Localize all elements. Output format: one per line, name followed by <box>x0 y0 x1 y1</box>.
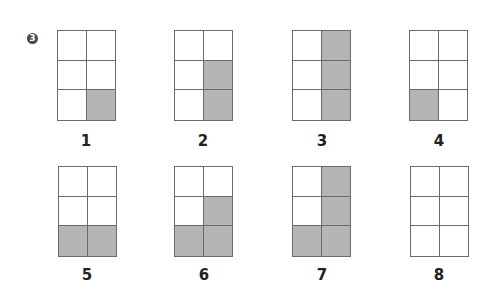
shaded-cell <box>204 226 233 256</box>
empty-cell <box>58 31 87 61</box>
figure-label-6: 6 <box>184 267 224 283</box>
empty-cell <box>88 167 117 197</box>
empty-cell <box>293 197 322 227</box>
shaded-cell <box>87 90 116 120</box>
empty-cell <box>439 90 468 120</box>
problem-number-badge: 3 <box>27 33 38 44</box>
empty-cell <box>175 90 204 120</box>
empty-cell <box>58 61 87 91</box>
shaded-cell <box>59 226 88 256</box>
empty-cell <box>204 167 233 197</box>
empty-cell <box>204 31 233 61</box>
empty-cell <box>411 197 440 227</box>
empty-cell <box>411 226 440 256</box>
empty-cell <box>59 167 88 197</box>
figure-grid-6 <box>174 166 233 257</box>
empty-cell <box>440 167 469 197</box>
empty-cell <box>175 167 204 197</box>
figure-label-8: 8 <box>419 267 459 283</box>
empty-cell <box>175 31 204 61</box>
empty-cell <box>175 197 204 227</box>
empty-cell <box>439 61 468 91</box>
figure-label-7: 7 <box>302 267 342 283</box>
empty-cell <box>293 61 322 91</box>
empty-cell <box>293 90 322 120</box>
shaded-cell <box>410 90 439 120</box>
figure-label-5: 5 <box>67 267 107 283</box>
shaded-cell <box>322 167 351 197</box>
figure-label-4: 4 <box>419 133 459 149</box>
shaded-cell <box>322 197 351 227</box>
empty-cell <box>410 61 439 91</box>
empty-cell <box>88 197 117 227</box>
shaded-cell <box>322 90 351 120</box>
empty-cell <box>293 167 322 197</box>
figure-grid-4 <box>409 30 468 121</box>
empty-cell <box>411 167 440 197</box>
shaded-cell <box>204 197 233 227</box>
empty-cell <box>440 226 469 256</box>
figure-grid-7 <box>292 166 351 257</box>
figure-grid-5 <box>58 166 117 257</box>
empty-cell <box>293 31 322 61</box>
shaded-cell <box>88 226 117 256</box>
shaded-cell <box>322 61 351 91</box>
empty-cell <box>175 61 204 91</box>
shaded-cell <box>322 226 351 256</box>
figure-label-2: 2 <box>183 133 223 149</box>
empty-cell <box>439 31 468 61</box>
shaded-cell <box>204 61 233 91</box>
empty-cell <box>87 31 116 61</box>
figure-label-1: 1 <box>66 133 106 149</box>
shaded-cell <box>293 226 322 256</box>
figure-grid-2 <box>174 30 233 121</box>
figure-grid-1 <box>57 30 116 121</box>
empty-cell <box>58 90 87 120</box>
figure-grid-3 <box>292 30 351 121</box>
shaded-cell <box>204 90 233 120</box>
empty-cell <box>410 31 439 61</box>
figure-grid-8 <box>410 166 469 257</box>
shaded-cell <box>322 31 351 61</box>
empty-cell <box>440 197 469 227</box>
shaded-cell <box>175 226 204 256</box>
figure-label-3: 3 <box>302 133 342 149</box>
empty-cell <box>59 197 88 227</box>
empty-cell <box>87 61 116 91</box>
